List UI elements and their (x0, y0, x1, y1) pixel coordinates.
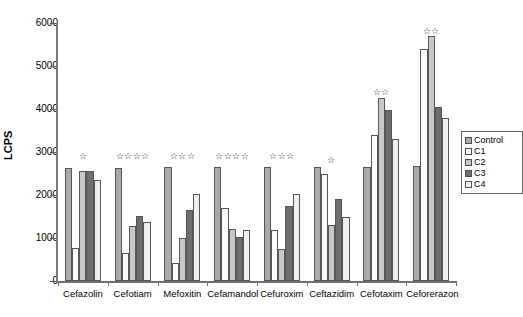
legend-item-c3[interactable]: C3 (465, 168, 520, 179)
x-axis-tick-mark (307, 281, 308, 286)
legend-swatch-c1 (465, 148, 472, 155)
bar-group (314, 23, 350, 281)
bar-group (264, 23, 300, 281)
y-axis-tick: 6000 (0, 23, 58, 24)
bar-ceftazidim-c3 (335, 199, 342, 281)
legend-item-control[interactable]: Control (465, 135, 520, 146)
bar-cefuroxim-control (264, 167, 271, 281)
legend-swatch-c2 (465, 159, 472, 166)
bar-mefoxitin-c4 (193, 194, 200, 281)
y-axis-tick: 4000 (0, 109, 58, 110)
legend-item-c1[interactable]: C1 (465, 146, 520, 157)
x-axis-tick-mark (357, 281, 358, 286)
x-axis-tick-mark (108, 281, 109, 286)
bar-group (363, 23, 399, 281)
bar-cefotiam-c4 (143, 222, 150, 281)
bar-cefotiam-c2 (129, 226, 136, 281)
y-axis-tick: 5000 (0, 66, 58, 67)
x-axis-label-mefoxitin: Mefoxitin (158, 288, 208, 299)
x-axis-label-ceftazidim: Ceftazidim (307, 288, 357, 299)
bar-ceforerazon-c3 (435, 107, 442, 281)
x-axis-tick-mark (257, 281, 258, 286)
legend-swatch-c3 (465, 170, 472, 177)
plot-area: ☆☆☆☆☆☆☆☆☆☆☆☆☆☆☆☆☆☆☆☆ (58, 23, 456, 281)
legend-label: Control (474, 136, 503, 145)
bar-group (413, 23, 449, 281)
bar-cefazolin-control (65, 168, 72, 281)
bar-cefotaxim-c3 (385, 110, 392, 281)
bar-cefotaxim-control (363, 167, 370, 281)
y-axis-tick: 3000 (0, 152, 58, 153)
bar-ceftazidim-c1 (321, 174, 328, 282)
bar-ceforerazon-c2 (428, 36, 435, 281)
bar-cefamandol-c4 (243, 230, 250, 281)
bar-cefamandol-control (214, 167, 221, 281)
legend-label: C4 (474, 180, 486, 189)
bar-ceftazidim-control (314, 167, 321, 281)
bar-group (65, 23, 101, 281)
legend-swatch-control (465, 137, 472, 144)
x-axis-tick-mark (158, 281, 159, 286)
x-axis-label-ceforerazon: Ceforerazon (406, 288, 456, 299)
bar-ceforerazon-control (413, 166, 420, 281)
bar-group (164, 23, 200, 281)
x-axis-tick-mark (207, 281, 208, 286)
bar-ceftazidim-c2 (328, 225, 335, 281)
bar-mefoxitin-c2 (179, 238, 186, 281)
bar-cefamandol-c1 (221, 208, 228, 281)
bar-cefotiam-c1 (122, 253, 129, 281)
bar-ceforerazon-c1 (420, 49, 427, 281)
bar-cefotiam-control (115, 168, 122, 281)
y-axis-tick: 2000 (0, 195, 58, 196)
bar-cefuroxim-c3 (285, 206, 292, 281)
bar-cefamandol-c3 (236, 237, 243, 281)
bar-mefoxitin-c3 (186, 210, 193, 281)
bar-cefazolin-c4 (94, 180, 101, 281)
bar-mefoxitin-c1 (172, 263, 179, 281)
x-axis-tick-mark (406, 281, 407, 286)
bar-cefotaxim-c1 (371, 135, 378, 281)
y-axis-tick: 0 (0, 281, 58, 282)
bar-cefotaxim-c2 (378, 98, 385, 281)
bar-group (214, 23, 250, 281)
bar-group (115, 23, 151, 281)
legend-item-c2[interactable]: C2 (465, 157, 520, 168)
x-axis-label-cefuroxim: Cefuroxim (257, 288, 307, 299)
x-axis-line (56, 281, 456, 283)
x-axis-label-cefazolin: Cefazolin (58, 288, 108, 299)
bar-cefuroxim-c4 (293, 194, 300, 281)
bar-cefuroxim-c1 (271, 230, 278, 281)
bar-cefazolin-c1 (72, 248, 79, 281)
legend: ControlC1C2C3C4 (461, 131, 523, 194)
x-axis-label-cefotaxim: Cefotaxim (357, 288, 407, 299)
bar-mefoxitin-control (164, 167, 171, 281)
bar-cefazolin-c3 (86, 171, 93, 282)
legend-label: C1 (474, 147, 486, 156)
legend-label: C3 (474, 169, 486, 178)
x-axis-tick-mark (58, 281, 59, 286)
bar-ceftazidim-c4 (342, 217, 349, 282)
x-axis-label-cefotiam: Cefotiam (108, 288, 158, 299)
x-axis-tick-mark (456, 281, 457, 286)
bar-cefotaxim-c4 (392, 139, 399, 281)
bar-cefazolin-c2 (79, 171, 86, 281)
x-axis-label-cefamandol: Cefamandol (207, 288, 257, 299)
bar-cefotiam-c3 (136, 216, 143, 281)
bar-cefuroxim-c2 (278, 249, 285, 281)
bar-cefamandol-c2 (229, 229, 236, 281)
y-axis-tick: 1000 (0, 238, 58, 239)
legend-label: C2 (474, 158, 486, 167)
legend-item-c4[interactable]: C4 (465, 179, 520, 190)
legend-swatch-c4 (465, 181, 472, 188)
y-axis-title: LCPS (2, 131, 14, 160)
bar-ceforerazon-c4 (442, 118, 449, 281)
